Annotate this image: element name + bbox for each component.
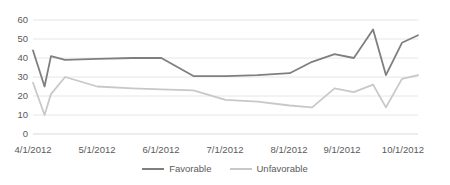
line-chart: 60 50 40 30 20 10 0 4/1/2012 5/1/2012 6/…: [0, 0, 450, 185]
gridlines: [33, 20, 418, 134]
chart-legend: Favorable Unfavorable: [0, 163, 450, 174]
x-axis-tick-0: 4/1/2012: [3, 145, 63, 155]
legend-label-unfavorable: Unfavorable: [257, 163, 308, 174]
x-axis-tick-1: 5/1/2012: [67, 145, 127, 155]
plot-area: [0, 0, 450, 185]
x-axis-tick-6: 10/1/2012: [373, 145, 433, 155]
x-axis-tick-2: 6/1/2012: [131, 145, 191, 155]
legend-item-favorable: Favorable: [142, 163, 211, 174]
x-axis-tick-5: 9/1/2012: [312, 145, 372, 155]
legend-swatch-unfavorable: [230, 168, 252, 170]
legend-item-unfavorable: Unfavorable: [230, 163, 308, 174]
x-axis-tick-3: 7/1/2012: [195, 145, 255, 155]
x-axis-tick-4: 8/1/2012: [259, 145, 319, 155]
legend-label-favorable: Favorable: [169, 163, 211, 174]
series-line-unfavorable: [33, 75, 418, 115]
legend-swatch-favorable: [142, 168, 164, 170]
